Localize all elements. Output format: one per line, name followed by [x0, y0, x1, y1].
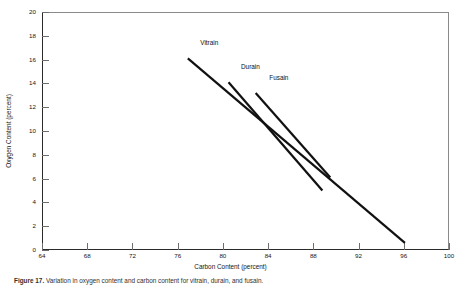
y-tick	[42, 202, 49, 203]
figure-caption: Figure 17. Variation in oxygen content a…	[14, 277, 454, 285]
x-tick-label: 88	[299, 253, 327, 259]
series-label-durain: Durain	[241, 64, 260, 70]
x-tick	[359, 243, 360, 250]
x-tick	[268, 243, 269, 250]
y-tick	[42, 155, 49, 156]
figure-caption-number: Figure 17.	[14, 277, 44, 284]
series-label-fusain: Fusain	[269, 75, 288, 81]
x-tick-label: 64	[28, 253, 56, 259]
y-tick	[42, 131, 49, 132]
y-tick	[42, 250, 49, 251]
x-tick	[313, 243, 314, 250]
y-tick	[42, 179, 49, 180]
x-axis-title: Carbon Content (percent)	[0, 264, 461, 270]
x-tick-label: 80	[209, 253, 237, 259]
y-tick	[42, 226, 49, 227]
x-tick	[132, 243, 133, 250]
y-tick	[42, 12, 49, 13]
y-tick	[42, 83, 49, 84]
y-axis-title: Oxygen Content (percent)	[3, 12, 15, 250]
y-tick	[42, 60, 49, 61]
x-tick	[42, 243, 43, 250]
y-tick	[42, 36, 49, 37]
x-tick-label: 96	[390, 253, 418, 259]
x-tick	[223, 243, 224, 250]
series-label-vitrain: Vitrain	[200, 40, 218, 46]
x-tick-label: 68	[73, 253, 101, 259]
x-tick	[178, 243, 179, 250]
x-tick-label: 84	[254, 253, 282, 259]
figure-caption-text: Variation in oxygen content and carbon c…	[46, 277, 263, 284]
x-tick	[404, 243, 405, 250]
x-tick-label: 72	[118, 253, 146, 259]
y-tick	[42, 107, 49, 108]
x-tick-label: 92	[345, 253, 373, 259]
plot-area	[42, 12, 449, 250]
x-tick-label: 76	[164, 253, 192, 259]
x-tick	[449, 243, 450, 250]
x-tick	[87, 243, 88, 250]
x-tick-label: 100	[435, 253, 461, 259]
